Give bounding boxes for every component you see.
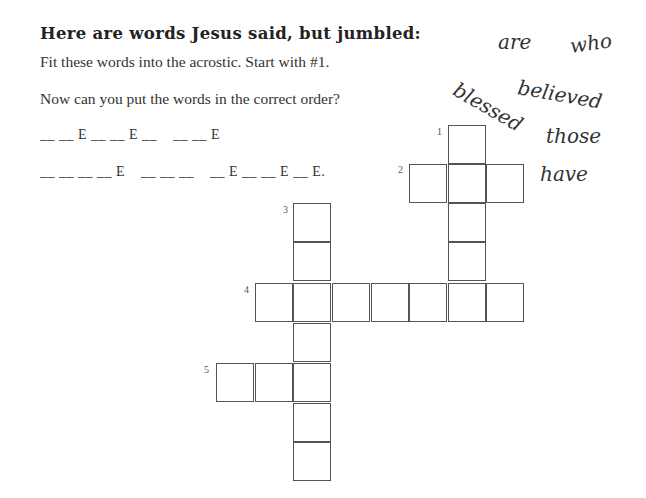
jumbled-word-have: have xyxy=(540,162,588,186)
instruction-correct-order: Now can you put the words in the correct… xyxy=(40,90,340,108)
acrostic-cell[interactable] xyxy=(293,363,331,402)
acrostic-cell[interactable] xyxy=(448,242,486,281)
acrostic-cell[interactable] xyxy=(448,203,486,242)
answer-blanks-line-1: __ __ E __ __ E __ __ __ E xyxy=(40,127,220,143)
clue-number-3: 3 xyxy=(283,204,288,215)
acrostic-cell[interactable] xyxy=(293,403,331,442)
clue-number-5: 5 xyxy=(204,364,209,375)
answer-blanks-line-2: __ __ __ __ E __ __ __ __ E __ __ E __ E… xyxy=(40,164,325,180)
acrostic-cell[interactable] xyxy=(448,164,486,203)
clue-number-4: 4 xyxy=(244,284,249,295)
acrostic-cell[interactable] xyxy=(255,363,293,402)
acrostic-cell[interactable] xyxy=(409,164,447,203)
acrostic-cell[interactable] xyxy=(293,203,331,242)
clue-number-1: 1 xyxy=(437,126,442,137)
acrostic-cell[interactable] xyxy=(255,283,293,322)
acrostic-cell[interactable] xyxy=(448,283,486,322)
acrostic-cell[interactable] xyxy=(293,442,331,481)
acrostic-cell[interactable] xyxy=(293,283,331,322)
acrostic-cell[interactable] xyxy=(409,283,447,322)
jumbled-word-are: are xyxy=(498,30,531,54)
acrostic-cell[interactable] xyxy=(293,242,331,281)
jumbled-word-believed: believed xyxy=(516,75,604,113)
acrostic-cell[interactable] xyxy=(486,164,524,203)
acrostic-cell[interactable] xyxy=(371,283,409,322)
acrostic-cell[interactable] xyxy=(486,283,524,322)
page-heading: Here are words Jesus said, but jumbled: xyxy=(40,24,421,43)
clue-number-2: 2 xyxy=(398,164,403,175)
acrostic-cell[interactable] xyxy=(293,323,331,362)
instruction-fit-words: Fit these words into the acrostic. Start… xyxy=(40,53,329,71)
jumbled-word-those: those xyxy=(546,124,601,148)
acrostic-cell[interactable] xyxy=(448,125,486,164)
acrostic-cell[interactable] xyxy=(216,363,254,402)
acrostic-cell[interactable] xyxy=(332,283,370,322)
jumbled-word-who: who xyxy=(568,28,613,58)
